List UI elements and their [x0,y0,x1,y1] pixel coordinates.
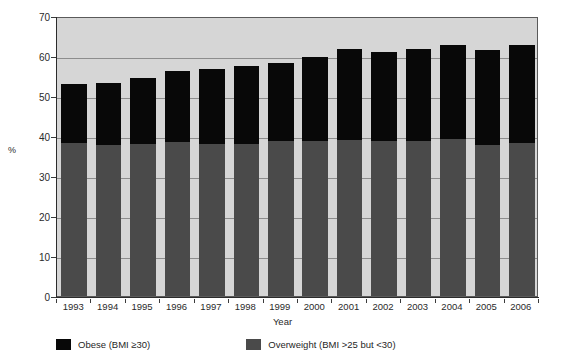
x-tick-mark [56,299,57,303]
y-tick-label: 60 [24,52,50,63]
y-axis-ticks: 706050403020100 [20,0,50,362]
bar-1996[interactable] [165,16,191,296]
legend-label-overweight: Overweight (BMI >25 but <30) [268,339,395,350]
chart-legend: Obese (BMI ≥30) Overweight (BMI >25 but … [56,336,526,352]
bar-1994[interactable] [96,16,122,296]
bar-segment-overweight[interactable] [302,141,328,296]
x-tick-label-2003: 2003 [407,301,428,312]
x-tick-mark [125,299,126,303]
bar-segment-overweight[interactable] [234,144,260,296]
bar-segment-overweight[interactable] [371,141,397,296]
bar-segment-overweight[interactable] [199,144,225,296]
x-axis-line [56,297,539,298]
bar-segment-obese[interactable] [268,63,294,141]
obese-swatch-icon [56,339,71,350]
x-tick-label-1995: 1995 [131,301,152,312]
y-axis-line [56,17,57,298]
bar-1997[interactable] [199,16,225,296]
bar-segment-obese[interactable] [165,71,191,142]
bar-segment-obese[interactable] [440,45,466,139]
x-tick-mark [469,299,470,303]
bar-segment-overweight[interactable] [61,143,87,296]
bar-1995[interactable] [130,16,156,296]
x-axis-label: Year [0,316,565,327]
x-tick-mark [159,299,160,303]
x-tick-mark [297,299,298,303]
x-tick-mark [194,299,195,303]
x-tick-mark [263,299,264,303]
x-tick-label-2004: 2004 [441,301,462,312]
x-tick-label-1997: 1997 [200,301,221,312]
bar-2005[interactable] [475,16,501,296]
bar-segment-overweight[interactable] [130,144,156,296]
x-tick-mark [90,299,91,303]
bar-segment-obese[interactable] [406,49,432,141]
bar-segment-obese[interactable] [96,83,122,145]
bar-2000[interactable] [302,16,328,296]
bar-segment-overweight[interactable] [268,141,294,296]
x-tick-label-1998: 1998 [235,301,256,312]
bar-1993[interactable] [61,16,87,296]
bar-2001[interactable] [337,16,363,296]
x-tick-label-2002: 2002 [372,301,393,312]
bar-segment-overweight[interactable] [475,145,501,296]
bar-2004[interactable] [440,16,466,296]
bar-segment-obese[interactable] [130,78,156,144]
x-tick-label-2006: 2006 [510,301,531,312]
clipped-footer-text [0,357,565,362]
y-tick-label: 20 [24,212,50,223]
y-tick-label: 70 [24,12,50,23]
bar-segment-obese[interactable] [302,57,328,141]
bar-segment-overweight[interactable] [96,145,122,296]
x-tick-mark [538,299,539,303]
x-tick-mark [504,299,505,303]
bar-segment-overweight[interactable] [406,141,432,296]
y-tick-label: 40 [24,132,50,143]
legend-item-obese: Obese (BMI ≥30) [56,339,150,350]
y-tick-label: 50 [24,92,50,103]
plot-area [56,17,538,297]
y-tick-label: 0 [24,292,50,303]
x-tick-label-1994: 1994 [97,301,118,312]
y-tick-label: 10 [24,252,50,263]
x-tick-label-1999: 1999 [269,301,290,312]
bar-segment-overweight[interactable] [165,142,191,296]
x-tick-label-2005: 2005 [476,301,497,312]
x-tick-label-1996: 1996 [166,301,187,312]
x-tick-mark [366,299,367,303]
chart-figure: % 706050403020100 1993199419951996199719… [0,0,565,362]
bar-segment-obese[interactable] [371,52,397,140]
x-tick-label-2000: 2000 [304,301,325,312]
y-axis-label: % [8,145,16,155]
x-tick-mark [435,299,436,303]
bar-segment-overweight[interactable] [440,139,466,296]
bar-segment-overweight[interactable] [337,140,363,296]
bar-1999[interactable] [268,16,294,296]
x-tick-mark [400,299,401,303]
y-tick-label: 30 [24,172,50,183]
bar-segment-obese[interactable] [199,69,225,144]
x-tick-mark [228,299,229,303]
overweight-swatch-icon [246,339,261,350]
bar-segment-obese[interactable] [234,66,260,144]
bar-2006[interactable] [509,16,535,296]
bar-segment-obese[interactable] [475,50,501,145]
x-tick-mark [331,299,332,303]
x-tick-label-1993: 1993 [63,301,84,312]
bar-segment-obese[interactable] [337,49,363,140]
bar-1998[interactable] [234,16,260,296]
bar-segment-obese[interactable] [61,84,87,143]
legend-item-overweight: Overweight (BMI >25 but <30) [246,339,395,350]
bar-2003[interactable] [406,16,432,296]
x-axis-ticks: 1993199419951996199719981999200020012002… [56,299,538,315]
bar-segment-overweight[interactable] [509,143,535,296]
bar-2002[interactable] [371,16,397,296]
x-tick-label-2001: 2001 [338,301,359,312]
bar-segment-obese[interactable] [509,45,535,143]
legend-label-obese: Obese (BMI ≥30) [78,339,150,350]
